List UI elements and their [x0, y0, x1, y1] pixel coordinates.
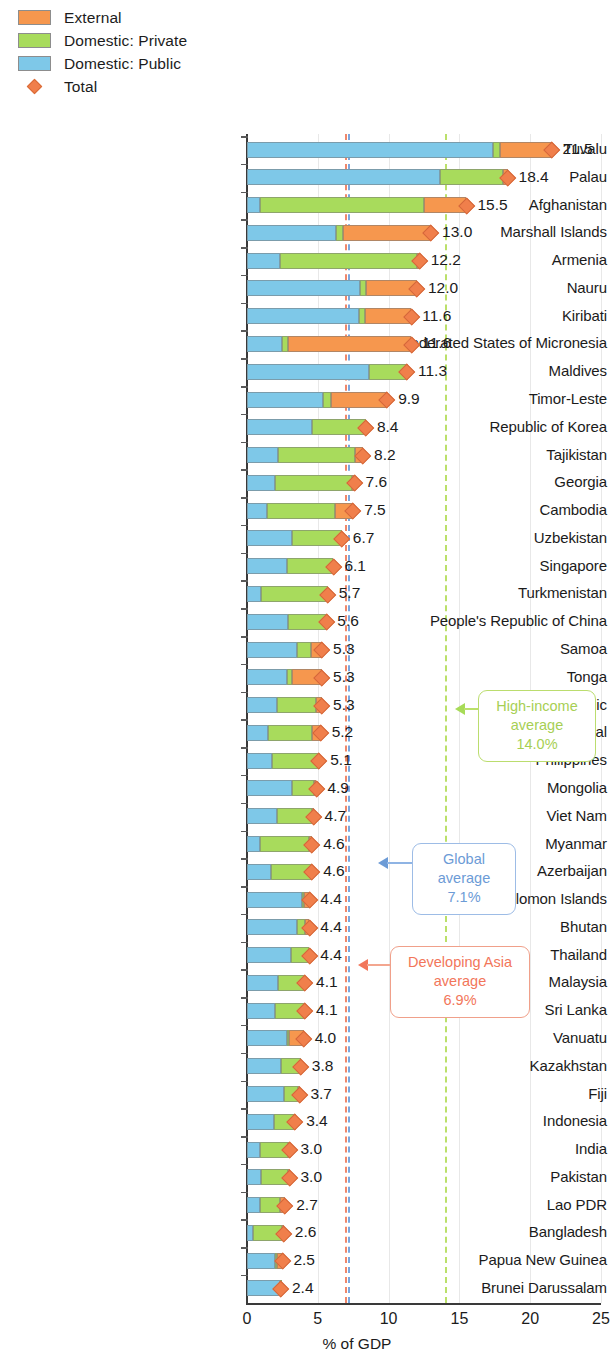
bar-segment-private [261, 586, 328, 602]
y-axis-tick [241, 636, 248, 638]
value-label: 4.4 [320, 942, 342, 968]
stacked-bar [247, 392, 601, 408]
bar-segment-public [247, 364, 369, 380]
value-label: 5.2 [332, 719, 354, 745]
bar-segment-public [247, 753, 272, 769]
callout-value: 6.9% [400, 991, 520, 1010]
bar-segment-private [336, 225, 343, 241]
y-axis-tick [241, 747, 248, 749]
y-axis-tick [241, 942, 248, 944]
chart-row: Republic of Korea8.4 [0, 414, 614, 440]
chart-row: Myanmar4.6 [0, 831, 614, 857]
callout-high-income[interactable]: High-incomeaverage14.0% [478, 690, 596, 762]
bar-segment-public [247, 280, 360, 296]
stacked-bar [247, 558, 601, 574]
value-label: 4.1 [316, 969, 338, 995]
callout-developing-asia[interactable]: Developing Asiaaverage6.9% [390, 946, 530, 1018]
value-label: 6.7 [353, 525, 375, 551]
value-label: 6.1 [344, 553, 366, 579]
bar-segment-public [247, 558, 287, 574]
bar-segment-public [247, 642, 297, 658]
chart-row: Lao PDR2.7 [0, 1192, 614, 1218]
chart-figure: ExternalDomestic: PrivateDomestic: Publi… [0, 0, 614, 1360]
bar-segment-public [247, 197, 260, 213]
value-label: 21.5 [562, 136, 592, 162]
bar-segment-public [247, 503, 267, 519]
chart-row: Kazakhstan3.8 [0, 1053, 614, 1079]
y-axis-tick [241, 553, 248, 555]
y-axis-tick [241, 664, 248, 666]
value-label: 11.3 [418, 358, 447, 384]
bar-segment-public [247, 1253, 275, 1269]
value-label: 13.0 [442, 219, 472, 245]
y-axis-tick [241, 1164, 248, 1166]
chart-row: Afghanistan15.5 [0, 192, 614, 218]
chart-row: Uzbekistan6.7 [0, 525, 614, 551]
y-axis-tick [241, 1192, 248, 1194]
plot-area: Tuvalu21.5Palau18.4Afghanistan15.5Marsha… [0, 0, 614, 1360]
bar-segment-private [260, 836, 310, 852]
bar-segment-private [267, 503, 335, 519]
value-label: 2.5 [293, 1247, 315, 1273]
bar-segment-public [247, 308, 359, 324]
stacked-bar [247, 142, 601, 158]
chart-row: Federated States of Micronesia11.6 [0, 330, 614, 356]
stacked-bar [247, 586, 601, 602]
y-axis-tick [241, 1025, 248, 1027]
bar-segment-public [247, 864, 271, 880]
chart-row: Vanuatu4.0 [0, 1025, 614, 1051]
y-axis-tick [241, 497, 248, 499]
value-label: 11.6 [422, 303, 451, 329]
value-label: 5.3 [333, 636, 355, 662]
bar-segment-public [247, 697, 277, 713]
value-label: 8.2 [374, 442, 396, 468]
y-axis-tick [241, 1081, 248, 1083]
stacked-bar [247, 1030, 601, 1046]
bar-segment-external [343, 225, 431, 241]
stacked-bar [247, 225, 601, 241]
y-axis-tick [241, 525, 248, 527]
chart-row: Timor-Leste9.9 [0, 386, 614, 412]
callout-global[interactable]: Global average7.1% [412, 843, 516, 915]
y-axis-tick [241, 914, 248, 916]
chart-row: Pakistan3.0 [0, 1164, 614, 1190]
y-axis-tick [241, 386, 248, 388]
y-axis-tick [241, 858, 248, 860]
callout-arrow-global [378, 862, 411, 864]
value-label: 3.7 [310, 1081, 332, 1107]
y-axis-tick [241, 608, 248, 610]
x-axis-tick-label: 20 [521, 1310, 539, 1328]
y-axis-tick [241, 1108, 248, 1110]
value-label: 12.2 [431, 247, 461, 273]
bar-segment-public [247, 1058, 281, 1074]
callout-value: 7.1% [422, 888, 506, 907]
stacked-bar [247, 280, 601, 296]
stacked-bar [247, 503, 601, 519]
y-axis-tick [241, 330, 248, 332]
y-axis-tick [241, 692, 248, 694]
chart-row: Indonesia3.4 [0, 1108, 614, 1134]
callout-line-2: average [511, 717, 563, 733]
value-label: 4.6 [323, 858, 345, 884]
bar-segment-public [247, 169, 440, 185]
chart-row: Bhutan4.4 [0, 914, 614, 940]
y-axis-tick [241, 1136, 248, 1138]
value-label: 2.6 [295, 1219, 317, 1245]
bar-segment-public [247, 1003, 275, 1019]
bar-segment-private [278, 447, 354, 463]
bar-segment-private [323, 392, 330, 408]
y-axis-tick [241, 1219, 248, 1221]
chart-row: Armenia12.2 [0, 247, 614, 273]
stacked-bar [247, 780, 601, 796]
bar-segment-public [247, 919, 297, 935]
bar-segment-public [247, 419, 312, 435]
value-label: 11.6 [422, 330, 451, 356]
value-label: 2.7 [296, 1192, 318, 1218]
bar-segment-public [247, 669, 287, 685]
bar-segment-public [247, 142, 493, 158]
y-axis-tick [241, 442, 248, 444]
value-label: 4.4 [320, 914, 342, 940]
stacked-bar [247, 419, 601, 435]
y-axis-tick [241, 358, 248, 360]
chart-row: India3.0 [0, 1136, 614, 1162]
